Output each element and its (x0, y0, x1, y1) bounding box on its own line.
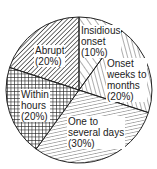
label-one-to-several-days: One to several days (30%) (67, 116, 125, 149)
label-insidious-onset: Insidious onset (10%) (80, 25, 121, 58)
label-abrupt: Abrupt (20%) (34, 45, 65, 67)
label-weeks-to-months: Onset weeks to months (20%) (106, 58, 147, 102)
label-within-hours: Within hours (20%) (20, 89, 50, 122)
